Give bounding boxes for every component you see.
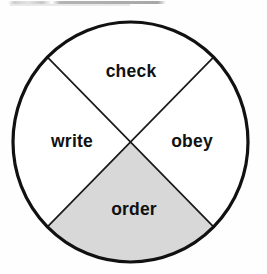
figure-container: check write obey order [0,0,267,274]
sector-label-obey: obey [171,131,213,151]
sector-label-order: order [111,199,157,219]
sector-label-write: write [50,131,93,151]
sector-label-check: check [106,61,157,81]
sector-circle-diagram: check write obey order [0,0,267,274]
